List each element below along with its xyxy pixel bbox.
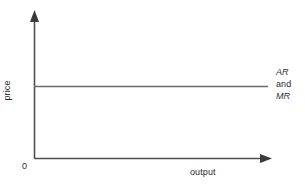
axes-and-curve-canvas — [0, 0, 305, 194]
origin-label: 0 — [22, 161, 27, 172]
ar-mr-series-label: AR and MR — [276, 66, 291, 102]
y-axis-arrowhead-icon — [30, 10, 39, 22]
economics-diagram-figure: price 0 output AR and MR — [0, 0, 305, 194]
x-axis-arrowhead-icon — [260, 154, 272, 163]
y-axis-label: price — [2, 90, 36, 101]
ar-label: AR — [276, 66, 291, 78]
and-conjunction-label: and — [276, 78, 291, 90]
x-axis-label: output — [190, 167, 216, 178]
mr-label: MR — [276, 90, 291, 102]
